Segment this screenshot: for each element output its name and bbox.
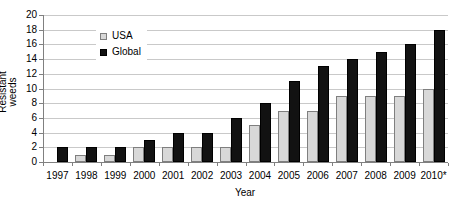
- bar-global-2010: [434, 30, 445, 162]
- x-tick-label: 2002: [191, 171, 213, 181]
- y-tick: [39, 30, 43, 31]
- bar-usa-1999: [104, 155, 115, 162]
- x-tick: [246, 163, 247, 166]
- bar-usa-1998: [75, 155, 86, 162]
- x-axis-title: Year: [235, 188, 255, 198]
- x-tick-label: 2003: [220, 171, 242, 181]
- x-tick-label: 1999: [104, 171, 126, 181]
- x-tick: [303, 163, 304, 166]
- x-tick-label: 2005: [278, 171, 300, 181]
- x-tick: [101, 163, 102, 166]
- bar-usa-2007: [336, 96, 347, 162]
- x-tick-label: 2001: [162, 171, 184, 181]
- x-tick: [159, 163, 160, 166]
- y-tick-label: 2: [11, 142, 37, 152]
- resistant-weeds-bar-chart: 0246810121416182019971998199920002001200…: [0, 0, 452, 205]
- y-tick-label: 16: [11, 39, 37, 49]
- y-tick-label: 18: [11, 25, 37, 35]
- x-tick: [72, 163, 73, 166]
- bar-global-2009: [405, 44, 416, 162]
- bar-global-1997: [57, 147, 68, 162]
- legend: USAGlobal: [96, 25, 147, 63]
- bar-usa-2000: [133, 147, 144, 162]
- x-tick-label: 2009: [393, 171, 415, 181]
- bar-global-2006: [318, 66, 329, 162]
- x-tick-label: 2007: [336, 171, 358, 181]
- bar-usa-2005: [278, 111, 289, 162]
- bar-usa-2006: [307, 111, 318, 162]
- bar-usa-2003: [220, 147, 231, 162]
- x-tick: [448, 163, 449, 166]
- bar-usa-2008: [365, 96, 376, 162]
- bar-global-2000: [144, 140, 155, 162]
- x-tick: [274, 163, 275, 166]
- y-tick: [39, 59, 43, 60]
- y-tick-label: 0: [11, 157, 37, 167]
- gridline: [43, 15, 448, 16]
- y-axis-line: [43, 15, 44, 163]
- y-tick: [39, 44, 43, 45]
- gridline: [43, 103, 448, 104]
- x-tick: [419, 163, 420, 166]
- legend-item-usa: USA: [100, 29, 141, 43]
- x-tick: [361, 163, 362, 166]
- legend-label-global: Global: [112, 47, 141, 57]
- bar-global-2008: [376, 52, 387, 162]
- y-tick-label: 4: [11, 128, 37, 138]
- legend-label-usa: USA: [112, 31, 133, 41]
- gridline: [43, 147, 448, 148]
- y-tick: [39, 15, 43, 16]
- x-tick: [332, 163, 333, 166]
- bar-usa-2010: [423, 89, 434, 163]
- x-tick: [217, 163, 218, 166]
- y-tick: [39, 89, 43, 90]
- legend-swatch-usa-icon: [100, 33, 107, 40]
- gridline: [43, 89, 448, 90]
- bar-global-2007: [347, 59, 358, 162]
- x-tick-label: 2000: [133, 171, 155, 181]
- x-tick: [390, 163, 391, 166]
- bar-global-2001: [173, 133, 184, 162]
- y-tick: [39, 147, 43, 148]
- y-tick: [39, 118, 43, 119]
- bar-usa-2002: [191, 147, 202, 162]
- bar-global-2003: [231, 118, 242, 162]
- y-tick: [39, 133, 43, 134]
- gridline: [43, 74, 448, 75]
- gridline: [43, 118, 448, 119]
- bar-global-2005: [289, 81, 300, 162]
- bar-global-2004: [260, 103, 271, 162]
- legend-item-global: Global: [100, 45, 141, 59]
- x-tick-label: 2006: [307, 171, 329, 181]
- bar-global-1998: [86, 147, 97, 162]
- legend-swatch-global-icon: [100, 49, 107, 56]
- y-tick-label: 20: [11, 10, 37, 20]
- y-tick: [39, 103, 43, 104]
- bar-usa-2009: [394, 96, 405, 162]
- bar-global-1999: [115, 147, 126, 162]
- x-tick: [188, 163, 189, 166]
- gridline: [43, 133, 448, 134]
- y-axis-title: Resistant weeds: [0, 57, 18, 127]
- bar-global-2002: [202, 133, 213, 162]
- x-tick-label: 2004: [249, 171, 271, 181]
- bar-usa-2004: [249, 125, 260, 162]
- x-tick-label: 2010*: [420, 171, 446, 181]
- x-tick-label: 1998: [75, 171, 97, 181]
- x-tick-label: 1997: [46, 171, 68, 181]
- bar-usa-2001: [162, 147, 173, 162]
- x-tick: [43, 163, 44, 166]
- plot-area: 0246810121416182019971998199920002001200…: [0, 0, 452, 205]
- x-tick-label: 2008: [365, 171, 387, 181]
- x-tick: [130, 163, 131, 166]
- y-tick: [39, 74, 43, 75]
